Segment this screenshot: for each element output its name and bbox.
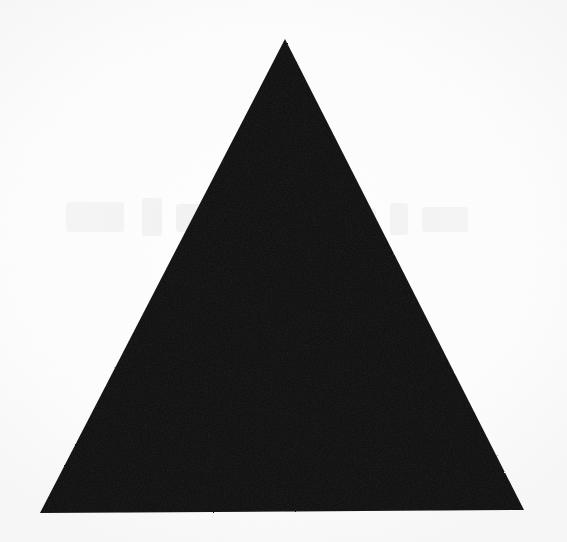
figure-caption (0, 518, 567, 542)
scanned-figure-canvas (0, 0, 567, 542)
paper-background (0, 0, 567, 542)
